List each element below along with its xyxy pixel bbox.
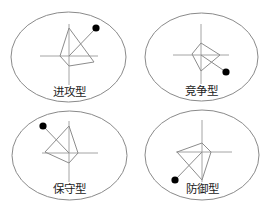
direction-dot-icon [92, 24, 99, 31]
panel-defensive: 防御型 [145, 110, 259, 200]
direction-dot-icon [222, 68, 229, 75]
strategy-diagram: 进攻型竞争型保守型防御型 [0, 0, 267, 213]
radar-polygon [177, 143, 211, 180]
panel-competitive: 竞争型 [145, 13, 258, 101]
panel-offensive: 进攻型 [11, 12, 126, 102]
direction-ray [201, 55, 226, 72]
panel-label: 竞争型 [185, 84, 218, 98]
panel-label: 防御型 [186, 182, 219, 196]
panel-label: 进攻型 [53, 85, 86, 99]
direction-dot-icon [39, 122, 46, 129]
direction-ray [69, 28, 96, 56]
panel-label: 保守型 [53, 182, 86, 196]
panel-conservative: 保守型 [12, 111, 127, 200]
radar-polygon [192, 43, 220, 71]
direction-dot-icon [171, 176, 178, 183]
